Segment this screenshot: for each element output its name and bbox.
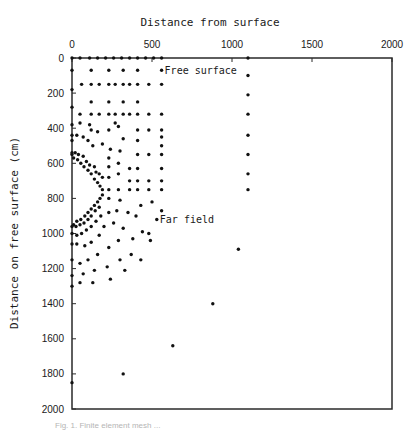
y-tick-label: 1800 xyxy=(42,368,65,379)
mesh-node xyxy=(107,246,110,249)
mesh-node xyxy=(155,218,158,221)
mesh-node xyxy=(112,221,115,224)
mesh-node xyxy=(70,105,73,108)
mesh-node xyxy=(94,170,97,173)
mesh-node xyxy=(150,200,153,203)
mesh-node xyxy=(70,151,73,154)
mesh-node xyxy=(126,211,129,214)
mesh-node xyxy=(101,188,104,191)
mesh-node xyxy=(136,139,139,142)
mesh-node xyxy=(128,179,131,182)
mesh-node xyxy=(75,134,78,137)
y-axis-label: Distance on free surface (cm) xyxy=(8,137,21,329)
mesh-node xyxy=(70,232,73,235)
mesh-node xyxy=(117,162,120,165)
mesh-node xyxy=(90,207,93,210)
y-tick-label: 200 xyxy=(47,88,64,99)
mesh-node xyxy=(86,211,89,214)
mesh-node xyxy=(90,69,93,72)
mesh-node xyxy=(136,69,139,72)
y-tick-label: 1200 xyxy=(42,263,65,274)
y-tick-label: 1600 xyxy=(42,333,65,344)
mesh-node xyxy=(109,277,112,280)
mesh-node xyxy=(107,112,110,115)
mesh-node xyxy=(90,112,93,115)
mesh-node xyxy=(171,344,174,347)
mesh-node xyxy=(70,56,73,59)
mesh-node xyxy=(98,234,101,237)
mesh-node xyxy=(117,172,120,175)
mesh-node xyxy=(90,128,93,131)
mesh-node xyxy=(83,214,86,217)
mesh-node xyxy=(122,112,125,115)
mesh-node xyxy=(128,83,131,86)
mesh-node xyxy=(152,56,155,59)
mesh-node xyxy=(86,139,89,142)
mesh-node xyxy=(147,179,150,182)
y-tick-label: 1000 xyxy=(42,228,65,239)
mesh-node xyxy=(246,188,249,191)
mesh-node xyxy=(74,225,77,228)
mesh-node xyxy=(78,262,81,265)
mesh-node xyxy=(101,193,104,196)
mesh-node xyxy=(107,128,110,131)
mesh-node xyxy=(85,160,88,163)
mesh-node xyxy=(147,188,150,191)
mesh-node xyxy=(114,83,117,86)
mesh-node xyxy=(139,204,142,207)
mesh-node xyxy=(107,176,110,179)
mesh-node xyxy=(136,56,139,59)
mesh-node xyxy=(82,135,85,138)
mesh-node xyxy=(70,274,73,277)
mesh-node xyxy=(112,56,115,59)
mesh-node xyxy=(160,83,163,86)
mesh-node xyxy=(107,188,110,191)
mesh-node xyxy=(246,74,249,77)
mesh-node xyxy=(117,125,120,128)
mesh-node xyxy=(70,258,73,261)
x-tick-label: 0 xyxy=(69,39,75,50)
mesh-node xyxy=(75,220,78,223)
scatter-chart: Distance from surface 0500100015002000 0… xyxy=(0,0,420,434)
annotation-label: Far field xyxy=(160,214,214,225)
y-tick-label: 600 xyxy=(47,158,64,169)
mesh-node xyxy=(96,200,99,203)
mesh-node xyxy=(88,123,91,126)
mesh-node xyxy=(93,177,96,180)
mesh-node xyxy=(91,144,94,147)
mesh-node xyxy=(93,165,96,168)
mesh-node xyxy=(160,188,163,191)
mesh-node xyxy=(246,56,249,59)
mesh-node xyxy=(82,155,85,158)
mesh-node xyxy=(246,172,249,175)
mesh-node xyxy=(86,258,89,261)
plot-frame xyxy=(72,58,392,409)
mesh-node xyxy=(120,56,123,59)
mesh-node xyxy=(90,241,93,244)
mesh-node xyxy=(118,149,121,152)
mesh-node xyxy=(160,153,163,156)
mesh-node xyxy=(82,272,85,275)
mesh-node xyxy=(83,244,86,247)
mesh-node xyxy=(98,83,101,86)
mesh-node xyxy=(88,163,91,166)
mesh-node xyxy=(70,88,73,91)
mesh-node xyxy=(107,156,110,159)
mesh-node xyxy=(88,56,91,59)
mesh-node xyxy=(98,112,101,115)
y-tick-label: 400 xyxy=(47,123,64,134)
mesh-node xyxy=(122,137,125,140)
mesh-node xyxy=(107,197,110,200)
mesh-node xyxy=(211,302,214,305)
mesh-node xyxy=(122,227,125,230)
mesh-node xyxy=(107,83,110,86)
mesh-node xyxy=(72,156,75,159)
mesh-node xyxy=(134,214,137,217)
mesh-node xyxy=(136,153,139,156)
mesh-node xyxy=(76,158,79,161)
mesh-node xyxy=(96,253,99,256)
mesh-node xyxy=(74,151,77,154)
y-tick-label: 1400 xyxy=(42,298,65,309)
mesh-node xyxy=(147,112,150,115)
mesh-node xyxy=(160,167,163,170)
